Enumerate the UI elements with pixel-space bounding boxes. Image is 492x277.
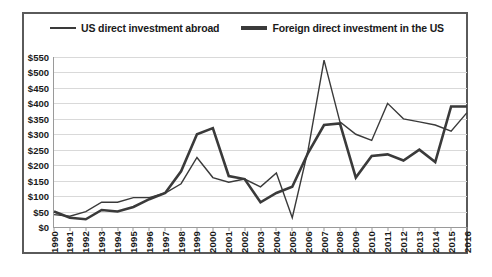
x-axis-tick-label: 2014 (430, 231, 441, 253)
x-axis-tick-label: 2006 (303, 231, 314, 253)
plot-area: $550$500$450$400$350$300$250$200$150$100… (54, 57, 467, 227)
x-axis-tick-label: 1998 (176, 231, 187, 253)
y-axis-tick-label: $500 (28, 67, 49, 78)
x-axis-tick-label: 1992 (80, 231, 91, 253)
y-axis-tick-label: $250 (28, 144, 49, 155)
x-axis-tick-label: 2002 (239, 231, 250, 253)
series-line (54, 60, 467, 218)
x-axis-tick-label: 1999 (191, 231, 202, 253)
x-axis-tick-label: 2007 (319, 231, 330, 253)
y-axis-tick-label: $200 (28, 160, 49, 171)
y-axis-tick-label: $150 (28, 175, 49, 186)
x-axis-tick-label: 1996 (144, 231, 155, 253)
x-axis-tick-label: 2010 (366, 231, 377, 253)
x-axis-tick-label: 1994 (112, 231, 123, 253)
y-axis-tick-label: $550 (28, 52, 49, 63)
legend-label: US direct investment abroad (81, 22, 219, 34)
y-axis-tick-label: $350 (28, 113, 49, 124)
x-axis-tick-label: 2001 (223, 231, 234, 253)
x-axis-tick-label: 2000 (207, 231, 218, 253)
x-axis-tick-label: 2012 (398, 231, 409, 253)
x-axis-tick-label: 2009 (350, 231, 361, 253)
chart-container: US direct investment abroad Foreign dire… (22, 12, 468, 254)
legend-entry-us-direct-investment-abroad: US direct investment abroad (50, 22, 219, 34)
legend-label: Foreign direct investment in the US (272, 22, 444, 34)
x-axis-tick-label: 2005 (287, 231, 298, 253)
x-axis-tick-label: 1997 (160, 231, 171, 253)
y-axis-tick-label: $450 (28, 82, 49, 93)
x-axis-tick-label: 1995 (128, 231, 139, 253)
x-axis-tick-label: 2003 (255, 231, 266, 253)
x-axis-tick-label: 1993 (96, 231, 107, 253)
legend-entry-foreign-direct-investment-in-the-us: Foreign direct investment in the US (241, 22, 444, 34)
x-axis-tick-label: 2008 (334, 231, 345, 253)
x-axis-tick-label: 2015 (446, 231, 457, 253)
y-axis-tick-label: $0 (38, 222, 49, 233)
x-axis-tick-label: 2011 (382, 231, 393, 252)
x-axis-tick-label: 2004 (271, 231, 282, 253)
series-lines (54, 57, 467, 227)
chart-legend: US direct investment abroad Foreign dire… (24, 14, 470, 42)
x-axis-tick-label: 1990 (49, 231, 60, 253)
legend-swatch-line-thin (50, 27, 76, 29)
x-axis-tick-label: 2016 (462, 231, 473, 253)
y-axis-tick-label: $100 (28, 191, 49, 202)
y-axis-tick-label: $50 (33, 206, 49, 217)
x-axis-tick-label: 1991 (64, 231, 75, 253)
legend-swatch-line-thick (241, 26, 267, 30)
y-axis-tick-label: $300 (28, 129, 49, 140)
y-axis-tick-label: $400 (28, 98, 49, 109)
x-axis-tick-label: 2013 (414, 231, 425, 253)
